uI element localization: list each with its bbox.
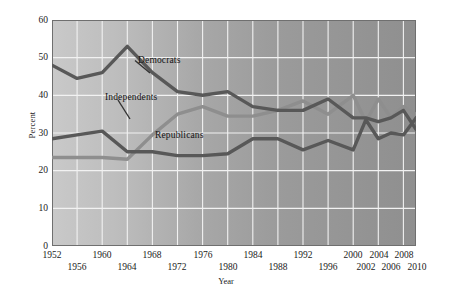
x-axis-label: Year bbox=[0, 276, 452, 286]
x-tick-1952: 1952 bbox=[30, 250, 74, 261]
x-tick-1960: 1960 bbox=[80, 250, 124, 261]
x-tick-1972: 1972 bbox=[155, 262, 199, 273]
x-tick-1980: 1980 bbox=[206, 262, 250, 273]
x-axis-ticks: 1952 1956 1960 1964 1968 1972 1976 1980 … bbox=[0, 0, 452, 306]
x-tick-2008: 2008 bbox=[382, 250, 426, 261]
x-tick-1964: 1964 bbox=[105, 262, 149, 273]
chart-figure: Percent 60 50 40 30 20 10 0 bbox=[0, 0, 452, 306]
x-tick-1956: 1956 bbox=[55, 262, 99, 273]
x-tick-1976: 1976 bbox=[181, 250, 225, 261]
x-tick-1984: 1984 bbox=[231, 250, 275, 261]
x-tick-1992: 1992 bbox=[281, 250, 325, 261]
x-tick-1988: 1988 bbox=[256, 262, 300, 273]
x-tick-2010: 2010 bbox=[395, 262, 439, 273]
x-tick-1968: 1968 bbox=[130, 250, 174, 261]
